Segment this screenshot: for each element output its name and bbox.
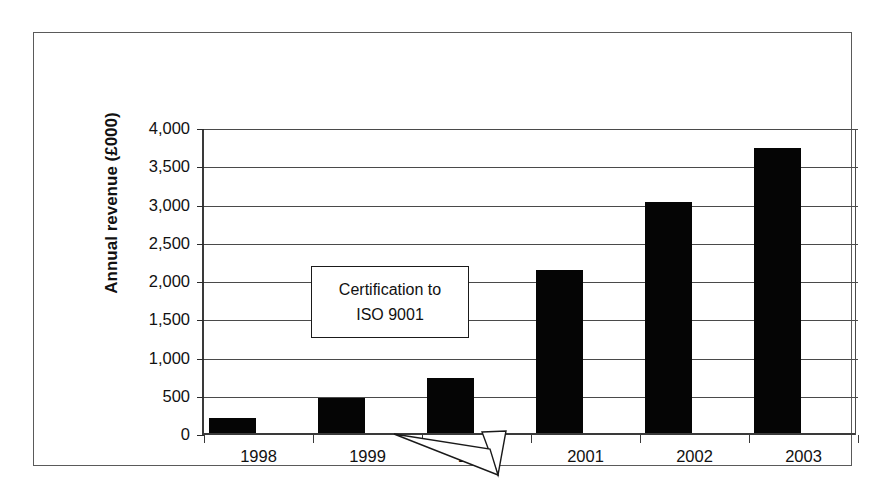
y-axis-tick-mark <box>197 282 204 283</box>
x-axis-tick-mark <box>640 435 641 443</box>
callout-line-2: ISO 9001 <box>356 306 424 324</box>
y-axis-tick-label: 3,000 <box>120 197 190 214</box>
x-axis-tick-label-2003: 2003 <box>749 447 859 466</box>
x-axis-tick-mark <box>531 435 532 443</box>
callout-line-1: Certification to <box>339 281 441 299</box>
x-axis-tick-mark <box>858 435 859 443</box>
bar-1999 <box>318 398 365 433</box>
y-axis-tick-label: 500 <box>120 388 190 405</box>
y-axis-tick-mark <box>197 320 204 321</box>
x-axis-tick-mark <box>313 435 314 443</box>
plot-right-edge <box>855 129 856 435</box>
bar-1998 <box>209 418 256 433</box>
y-axis-tick-mark <box>197 359 204 360</box>
x-axis-tick-mark <box>422 435 423 443</box>
y-axis-tick-label: 2,500 <box>120 235 190 252</box>
figure-frame: Annual revenue (£000) 05001,0001,5002,00… <box>33 32 852 466</box>
y-axis-tick-label: 0 <box>120 426 190 443</box>
bar-2001 <box>536 270 583 433</box>
y-axis-tick-mark <box>197 206 204 207</box>
bar-2002 <box>645 202 692 433</box>
y-axis-title: Annual revenue (£000) <box>102 73 122 333</box>
x-axis-tick-label-1998: 1998 <box>204 447 314 466</box>
y-axis-tick-mark <box>197 167 204 168</box>
y-axis-tick-mark <box>197 397 204 398</box>
y-axis-tick-label: 2,000 <box>120 273 190 290</box>
certification-callout: Certification to ISO 9001 <box>311 266 469 338</box>
x-axis-tick-mark <box>204 435 205 443</box>
figure-root: Annual revenue (£000) 05001,0001,5002,00… <box>0 0 886 499</box>
bar-2000 <box>427 378 474 433</box>
plot-area: 05001,0001,5002,0002,5003,0003,5004,000 … <box>202 129 856 435</box>
y-axis-tick-mark <box>197 435 204 436</box>
y-axis-tick-label: 4,000 <box>120 120 190 137</box>
bar-2003 <box>754 148 801 433</box>
x-axis-tick-label-1999: 1999 <box>313 447 423 466</box>
x-axis-tick-label-2001: 2001 <box>531 447 641 466</box>
y-axis-tick-label: 1,000 <box>120 350 190 367</box>
y-axis-tick-label: 1,500 <box>120 311 190 328</box>
x-axis-tick-label-2000: 2000 <box>422 447 532 466</box>
y-axis-tick-mark <box>197 244 204 245</box>
y-axis-tick-label: 3,500 <box>120 158 190 175</box>
gridline <box>204 129 858 130</box>
x-axis-tick-label-2002: 2002 <box>640 447 750 466</box>
y-axis-tick-mark <box>197 129 204 130</box>
x-axis-tick-mark <box>749 435 750 443</box>
